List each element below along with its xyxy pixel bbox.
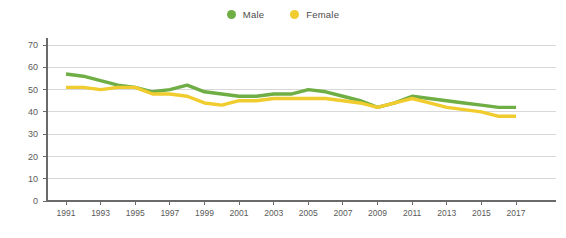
line-chart: Male Female 010203040506070 199119931995… — [0, 0, 566, 238]
y-tick-label: 0 — [33, 196, 38, 206]
x-tick-label: 2005 — [299, 208, 318, 218]
x-axis-ticks — [66, 201, 516, 205]
x-tick-label: 1995 — [126, 208, 145, 218]
data-series-group — [66, 74, 516, 116]
x-tick-label: 1993 — [91, 208, 110, 218]
x-tick-label: 2017 — [507, 208, 526, 218]
x-tick-label: 1991 — [57, 208, 76, 218]
y-tick-label: 40 — [28, 107, 38, 117]
x-tick-label: 2007 — [333, 208, 352, 218]
y-tick-label: 20 — [28, 152, 38, 162]
gridlines — [43, 45, 556, 201]
y-tick-label: 70 — [28, 40, 38, 50]
x-axis-labels: 1991199319951997199920012003200520072009… — [57, 208, 526, 218]
y-tick-label: 30 — [28, 129, 38, 139]
y-tick-label: 60 — [28, 62, 38, 72]
x-tick-label: 1999 — [195, 208, 214, 218]
x-tick-label: 2001 — [230, 208, 249, 218]
x-tick-label: 2009 — [368, 208, 387, 218]
plot-area: 010203040506070 199119931995199719992001… — [0, 0, 566, 238]
y-axis-labels: 010203040506070 — [28, 40, 38, 206]
x-tick-label: 2011 — [403, 208, 422, 218]
x-tick-label: 2003 — [264, 208, 283, 218]
x-tick-label: 1997 — [160, 208, 179, 218]
y-tick-label: 10 — [28, 174, 38, 184]
y-tick-label: 50 — [28, 85, 38, 95]
series-line-male — [66, 74, 516, 107]
x-tick-label: 2013 — [437, 208, 456, 218]
x-tick-label: 2015 — [472, 208, 491, 218]
